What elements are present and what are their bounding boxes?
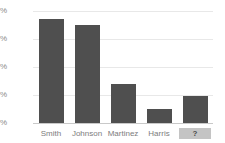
bar-johnson[interactable] [75,25,100,123]
bar-slot-unknown [177,11,213,123]
x-label-slot-harris: Harris [141,128,177,139]
x-label-slot-martinez: Martinez [105,128,141,139]
x-label-slot-unknown: ? [177,128,213,139]
bar-slot-smith [33,11,69,123]
y-tick-label-0: 0% [0,119,7,127]
x-label-harris: Harris [146,128,171,139]
x-axis-category-labels: Smith Johnson Martinez Harris ? [33,126,213,140]
x-label-martinez: Martinez [106,128,141,139]
x-label-johnson: Johnson [70,128,104,139]
y-tick-label-20: 20% [0,63,7,71]
x-label-smith: Smith [39,128,63,139]
x-label-unknown-highlight[interactable]: ? [179,128,212,139]
plot-area [33,11,213,123]
bar-smith[interactable] [39,19,64,123]
bar-slot-harris [141,11,177,123]
bar-slot-martinez [105,11,141,123]
y-tick-label-10: 10% [0,91,7,99]
x-label-slot-johnson: Johnson [69,128,105,139]
x-label-slot-smith: Smith [33,128,69,139]
y-tick-label-30: 30% [0,35,7,43]
y-tick-label-40: 40% [0,7,7,15]
bar-harris[interactable] [147,109,172,123]
axis-baseline [33,123,213,124]
bar-unknown[interactable] [183,96,208,123]
bar-martinez[interactable] [111,84,136,123]
bar-chart: 40% 30% 20% 10% 0% Smith Johnson Martine… [0,0,225,143]
bar-slot-johnson [69,11,105,123]
bar-series [33,11,213,123]
